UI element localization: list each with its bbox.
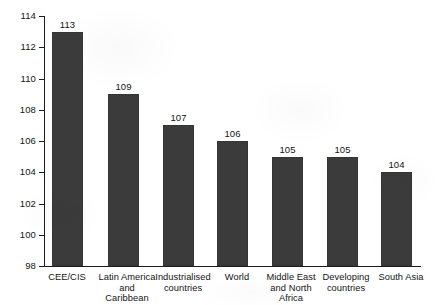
y-tick-label: 98	[2, 261, 36, 271]
y-tick-mark	[39, 172, 44, 173]
bar	[217, 141, 248, 266]
x-category-label: South Asia	[360, 272, 439, 283]
bar	[272, 157, 303, 266]
y-tick-label: 106	[2, 136, 36, 146]
y-tick-label: 114	[2, 11, 36, 21]
y-tick-label: 100	[2, 230, 36, 240]
y-tick-mark	[39, 47, 44, 48]
x-category-label-line: countries	[305, 283, 387, 294]
y-tick-mark	[39, 204, 44, 205]
bar	[163, 125, 194, 266]
x-category-label-line: South Asia	[360, 272, 439, 283]
bar-chart: 98100102104106108110112114 1131091071061…	[0, 0, 439, 305]
y-tick-mark	[39, 266, 44, 267]
y-tick-mark	[39, 16, 44, 17]
x-category-label-line: Caribbean	[86, 293, 168, 304]
y-tick-label: 108	[2, 105, 36, 115]
bar-value-label: 113	[43, 20, 92, 30]
bar-value-label: 105	[318, 145, 367, 155]
y-tick-label: 112	[2, 42, 36, 52]
bar-value-label: 109	[99, 82, 148, 92]
plot-area: 98100102104106108110112114 1131091071061…	[0, 0, 439, 305]
y-tick-mark	[39, 79, 44, 80]
bar	[108, 94, 139, 266]
bar-value-label: 105	[263, 145, 312, 155]
bar-value-label: 106	[208, 129, 257, 139]
y-tick-mark	[39, 141, 44, 142]
x-axis-line	[44, 266, 421, 267]
x-category-label-line: Africa	[250, 293, 332, 304]
y-axis-line	[44, 16, 45, 267]
bar	[327, 157, 358, 266]
y-tick-label: 110	[2, 74, 36, 84]
y-tick-label: 104	[2, 167, 36, 177]
bar-value-label: 107	[154, 113, 203, 123]
y-tick-label: 102	[2, 199, 36, 209]
bar	[52, 32, 83, 266]
bar-value-label: 104	[372, 160, 421, 170]
y-tick-mark	[39, 235, 44, 236]
x-category-label-line: countries	[142, 283, 224, 294]
bar	[381, 172, 412, 266]
y-tick-mark	[39, 110, 44, 111]
